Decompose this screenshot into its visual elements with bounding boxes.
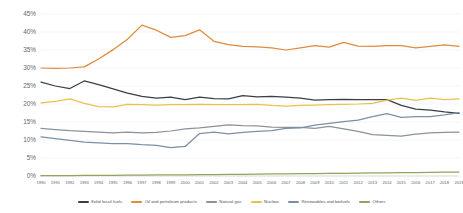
x-axis-tick-label: 2014 [382, 180, 392, 185]
x-axis-tick-label: 2002 [209, 180, 219, 185]
legend-label: Others [372, 199, 385, 204]
y-axis-tick-label: 40% [23, 28, 36, 35]
y-axis-tick-label: 5% [27, 154, 37, 161]
x-axis-tick-label: 2006 [267, 180, 277, 185]
x-axis-tick-label: 2010 [325, 180, 335, 185]
y-axis-tick-label: 25% [23, 82, 36, 89]
y-axis-tick-label: 15% [23, 118, 36, 125]
y-axis-tick-labels: 0%5%10%15%20%25%30%35%40%45% [23, 10, 36, 179]
x-axis-tick-label: 1993 [80, 180, 90, 185]
x-axis-tick-label: 2000 [181, 180, 191, 185]
x-axis-tick-label: 1991 [51, 180, 61, 185]
x-axis-tick-label: 2015 [397, 180, 407, 185]
x-axis-tick-label: 2001 [195, 180, 205, 185]
x-axis-tick-label: 2018 [440, 180, 450, 185]
x-axis-tick-label: 2005 [253, 180, 263, 185]
legend-label: Nuclear [264, 199, 279, 204]
x-axis-tick-label: 2012 [354, 180, 364, 185]
x-axis-tick-label: 1994 [94, 180, 104, 185]
x-axis-tick-label: 2007 [281, 180, 291, 185]
x-axis-tick-labels: 1990199119921993199419951996199719981999… [36, 180, 463, 185]
x-axis-tick-label: 2011 [339, 180, 349, 185]
legend-item-natural-gas[interactable]: Natural gas [206, 199, 242, 204]
chart-legend: Solid fossil fuelsOil and petroleum prod… [0, 190, 463, 213]
legend-label: Solid fossil fuels [91, 199, 122, 204]
y-axis-tick-label: 20% [23, 100, 36, 107]
legend-item-oil-and-petroleum-products[interactable]: Oil and petroleum products [131, 199, 197, 204]
legend-swatch-icon [78, 201, 89, 203]
legend-swatch-icon [288, 201, 299, 203]
legend-label: Natural gas [219, 199, 241, 204]
series-line-oil-and-petroleum-products [41, 25, 459, 68]
legend-item-nuclear[interactable]: Nuclear [251, 199, 279, 204]
y-axis-tick-label: 0% [27, 172, 37, 179]
x-axis-tick-label: 1992 [65, 180, 75, 185]
series-line-nuclear [41, 98, 459, 107]
legend-label: Renewables and biofuels [301, 199, 349, 204]
x-axis-tick-label: 2003 [224, 180, 234, 185]
y-axis-tick-label: 30% [23, 64, 36, 71]
x-axis-tick-label: 1999 [166, 180, 176, 185]
chart-svg: 0%5%10%15%20%25%30%35%40%45% 19901991199… [0, 0, 463, 190]
series-line-renewables-and-biofuels [41, 113, 459, 148]
x-axis-tick-label: 2008 [296, 180, 306, 185]
y-axis-tick-label: 10% [23, 136, 36, 143]
legend-item-renewables-and-biofuels[interactable]: Renewables and biofuels [288, 199, 350, 204]
x-axis-tick-label: 1998 [152, 180, 162, 185]
plot-area: 0%5%10%15%20%25%30%35%40%45% 19901991199… [0, 0, 463, 190]
x-axis-tick-label: 2009 [310, 180, 320, 185]
legend-item-others[interactable]: Others [359, 199, 386, 204]
legend-swatch-icon [206, 201, 217, 203]
series-line-natural-gas [41, 125, 459, 136]
x-axis-tick-label: 2017 [426, 180, 436, 185]
x-axis-tick-label: 1997 [137, 180, 147, 185]
x-axis-tick-label: 1990 [36, 180, 46, 185]
series-line-others [41, 172, 459, 176]
x-axis-tick-label: 2013 [368, 180, 378, 185]
line-chart: 0%5%10%15%20%25%30%35%40%45% 19901991199… [0, 0, 463, 213]
x-axis-tick-label: 2019 [454, 180, 463, 185]
x-axis-tick-label: 1995 [109, 180, 119, 185]
legend-swatch-icon [359, 201, 370, 203]
legend-item-solid-fossil-fuels[interactable]: Solid fossil fuels [78, 199, 123, 204]
x-axis-tick-label: 1996 [123, 180, 133, 185]
y-axis-tick-label: 35% [23, 46, 36, 53]
legend-swatch-icon [131, 201, 142, 203]
x-axis-tick-label: 2016 [411, 180, 421, 185]
legend-swatch-icon [251, 201, 262, 203]
y-axis-tick-label: 45% [23, 10, 36, 17]
x-axis-tick-label: 2004 [238, 180, 248, 185]
legend-label: Oil and petroleum products [145, 199, 197, 204]
series-lines [41, 25, 459, 175]
